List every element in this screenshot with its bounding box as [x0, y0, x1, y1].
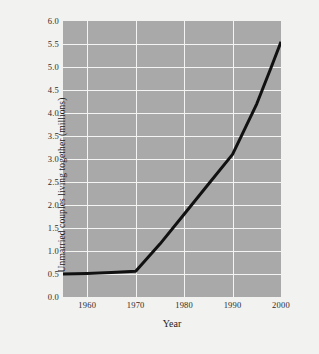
plot-area [63, 21, 281, 297]
x-axis-tick-labels: 19601970198019902000 [63, 300, 281, 314]
data-series-line [63, 21, 281, 297]
x-axis-tick-label: 1980 [161, 300, 207, 310]
x-axis-title: Year [63, 318, 281, 329]
y-axis-title: Unmarried couples living together (milli… [57, 55, 67, 315]
x-axis-tick-label: 1960 [64, 300, 110, 310]
x-axis-tick-label: 1970 [113, 300, 159, 310]
y-axis-title-wrap: Unmarried couples living together (milli… [22, 21, 36, 297]
chart-figure: 0.00.51.01.52.02.53.03.54.04.55.05.56.0 … [0, 0, 319, 354]
x-axis-tick-label: 2000 [258, 300, 304, 310]
x-axis-tick-label: 1990 [210, 300, 256, 310]
